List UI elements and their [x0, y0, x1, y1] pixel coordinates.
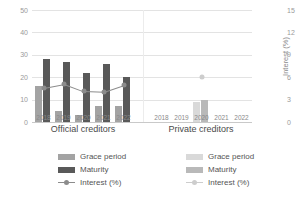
- left-axis-tick-label: 10: [2, 96, 28, 103]
- x-axis-tick-label: 2019: [172, 114, 191, 122]
- legend-item-maturity-official: Maturity: [58, 163, 126, 176]
- bar-group: [192, 10, 211, 122]
- bar-group: [172, 10, 191, 122]
- legend-item-interest-private: Interest (%): [186, 176, 254, 189]
- right-axis-tick-label: 12: [287, 29, 297, 36]
- legend-swatch-maturity-icon: [58, 167, 75, 173]
- interest-marker: [199, 75, 204, 80]
- bar-maturity: [43, 59, 50, 122]
- group-title-private: Private creditors: [150, 124, 252, 135]
- panel-official-creditors: [32, 10, 137, 122]
- left-axis-tick-label: 40: [2, 29, 28, 36]
- interest-marker: [101, 90, 106, 95]
- right-axis-tick-label: 9: [287, 51, 297, 58]
- legend-private: Grace period Maturity Interest (%): [186, 150, 254, 189]
- bar-group: [152, 10, 171, 122]
- interest-marker: [121, 83, 126, 88]
- bar-group: [94, 10, 113, 122]
- panel-divider: [143, 10, 144, 122]
- legend-swatch-maturity-icon: [186, 167, 203, 173]
- x-axis-tick-label: 2020: [192, 114, 211, 122]
- bar-group: [54, 10, 73, 122]
- x-axis-tick-label: 2018: [34, 114, 53, 122]
- x-axis-tick-label: 2021: [212, 114, 231, 122]
- legend-label-grace: Grace period: [208, 151, 254, 163]
- legend-swatch-grace-icon: [58, 154, 75, 160]
- legend-official: Grace period Maturity Interest (%): [58, 150, 126, 189]
- legend-line-marker-icon: [186, 180, 203, 186]
- group-title-official: Official creditors: [32, 124, 134, 135]
- left-axis-tick-label: 50: [2, 7, 28, 14]
- legend-item-grace-private: Grace period: [186, 150, 254, 163]
- legend-item-maturity-private: Maturity: [186, 163, 254, 176]
- bar-group: [212, 10, 231, 122]
- legend-label-maturity: Maturity: [208, 164, 236, 176]
- right-axis-tick-label: 3: [287, 96, 297, 103]
- plot-area: 01020304050 03691215: [32, 10, 252, 122]
- gridline: [32, 122, 252, 123]
- x-axis-tick-label: 2021: [94, 114, 113, 122]
- legend-label-interest: Interest (%): [208, 177, 249, 189]
- left-axis-tick-label: 20: [2, 74, 28, 81]
- legend-item-interest-official: Interest (%): [58, 176, 126, 189]
- x-axis-tick-label: 2019: [54, 114, 73, 122]
- x-axis-tick-label: 2022: [232, 114, 251, 122]
- legend-item-grace-official: Grace period: [58, 150, 126, 163]
- right-axis-tick-label: 0: [287, 119, 297, 126]
- bar-group: [232, 10, 251, 122]
- interest-marker: [41, 85, 46, 90]
- legend-line-marker-icon: [58, 180, 75, 186]
- bar-group: [74, 10, 93, 122]
- left-axis-tick-label: 0: [2, 119, 28, 126]
- interest-marker: [81, 89, 86, 94]
- x-axis-tick-label: 2018: [152, 114, 171, 122]
- right-axis-tick-label: 15: [287, 7, 297, 14]
- bar-group: [34, 10, 53, 122]
- legend-label-interest: Interest (%): [80, 177, 121, 189]
- right-axis-tick-label: 6: [287, 74, 297, 81]
- legend-swatch-grace-icon: [186, 154, 203, 160]
- panel-private-creditors: [150, 10, 252, 122]
- bar-group: [114, 10, 133, 122]
- bar-maturity: [63, 62, 70, 122]
- interest-marker: [61, 81, 66, 86]
- legend-label-maturity: Maturity: [80, 164, 108, 176]
- left-axis-tick-label: 30: [2, 51, 28, 58]
- x-axis-tick-label: 2022: [114, 114, 133, 122]
- legend-label-grace: Grace period: [80, 151, 126, 163]
- chart-container: Years Interest (%) 01020304050 03691215 …: [0, 0, 297, 198]
- x-axis-tick-label: 2020: [74, 114, 93, 122]
